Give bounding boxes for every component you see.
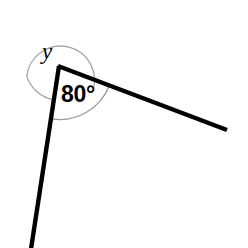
angle-diagram-svg: [0, 0, 248, 248]
ray-down-left: [31, 66, 59, 248]
angle-diagram-canvas: 80° y: [0, 0, 248, 248]
reflex-angle-label: y: [42, 40, 52, 63]
interior-angle-label: 80°: [61, 83, 95, 106]
